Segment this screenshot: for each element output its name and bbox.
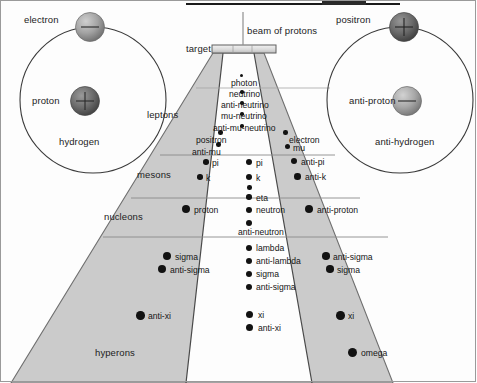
particle-label-anti-xi-center: anti-xi	[258, 324, 281, 333]
particle-dot	[336, 311, 345, 320]
particle-label-positron: positron	[196, 136, 227, 145]
particle-dot	[246, 258, 252, 264]
particle-dot	[246, 271, 252, 277]
particle-label-sigma-center: sigma	[256, 270, 279, 279]
particle-dot	[203, 159, 209, 165]
particle-label-anti-neutron: anti-neutron	[238, 228, 284, 237]
section-label-mesons: mesons	[137, 170, 171, 180]
particle-dot	[246, 311, 253, 318]
hydrogen-caption: hydrogen	[59, 137, 99, 147]
particle-label-xi-right: xi	[348, 312, 354, 321]
anti-hydrogen-caption: anti-hydrogen	[375, 137, 434, 147]
section-label-leptons: leptons	[147, 110, 178, 120]
particle-dot	[216, 142, 221, 147]
particle-dot	[158, 265, 166, 273]
particle-dot	[136, 311, 145, 320]
particle-dot	[283, 130, 288, 135]
particle-label-anti-neutrino: anti-neutrino	[221, 101, 269, 110]
particle-dot	[240, 74, 243, 77]
particle-dot	[246, 174, 252, 180]
particle-dot	[291, 158, 297, 164]
top-rule-bar	[186, 3, 400, 5]
particle-dot	[163, 252, 171, 260]
particle-dot	[294, 173, 301, 180]
particle-label-anti-k: anti-k	[305, 173, 326, 182]
particle-label-anti-sigma-center: anti-sigma	[256, 283, 296, 292]
diagram-canvas	[0, 0, 477, 383]
particle-label-lambda: lambda	[256, 244, 284, 253]
particle-label-mu-neutrino: mu-neutrino	[221, 112, 267, 121]
particle-dot	[348, 348, 357, 357]
particle-dot	[246, 245, 252, 251]
top-rule-bar-accent	[322, 1, 366, 5]
particle-label-anti-lambda: anti-lambda	[256, 257, 301, 266]
electron-label: electron	[24, 15, 59, 25]
particle-label-omega: omega	[361, 349, 387, 358]
positron-label: positron	[336, 15, 371, 25]
particle-dot	[246, 220, 252, 226]
particle-label-sigma-right: sigma	[337, 266, 360, 275]
particle-dot	[326, 265, 334, 273]
particle-label-pi-left: pi	[212, 159, 219, 168]
particle-dot	[182, 205, 190, 213]
particle-dot	[247, 185, 252, 190]
particle-label-neutrino: neutrino	[229, 90, 260, 99]
particle-label-proton: proton	[194, 206, 218, 215]
target-label: target	[186, 44, 211, 54]
particle-spray-diagram: electron proton hydrogen positron anti-p…	[0, 0, 477, 383]
particle-label-k-left: k	[206, 174, 210, 183]
particle-label-mu: mu	[293, 144, 305, 153]
particle-label-k-center: k	[256, 174, 260, 183]
anti-proton-label: anti-proton	[349, 96, 396, 106]
target-slab	[212, 45, 276, 53]
particle-dot	[246, 207, 252, 213]
particle-label-anti-sigma-right: anti-sigma	[333, 253, 373, 262]
section-label-hyperons: hyperons	[95, 348, 135, 358]
particle-dot	[246, 159, 252, 165]
particle-label-anti-sigma-left: anti-sigma	[170, 266, 210, 275]
particle-label-anti-xi-left: anti-xi	[148, 312, 171, 321]
particle-dot	[246, 284, 252, 290]
particle-label-sigma-left: sigma	[175, 253, 198, 262]
particle-label-anti-mu: anti-mu	[192, 148, 221, 157]
particle-dot	[305, 205, 313, 213]
particle-label-eta: eta	[256, 194, 268, 203]
hydrogen-electron-sphere	[76, 13, 105, 42]
particle-label-neutron: neutron	[256, 206, 285, 215]
particle-dot	[218, 130, 223, 135]
proton-label: proton	[32, 96, 60, 106]
beam-of-protons-label: beam of protons	[247, 26, 317, 36]
particle-label-pi-center: pi	[256, 159, 263, 168]
particle-label-anti-pi: anti-pi	[301, 158, 324, 167]
particle-dot	[246, 194, 252, 200]
particle-label-xi-center: xi	[258, 311, 264, 320]
particle-dot	[197, 174, 203, 180]
particle-dot	[322, 252, 330, 260]
anti-hydrogen-positron-sphere	[390, 13, 419, 42]
particle-label-anti-proton: anti-proton	[317, 206, 358, 215]
anti-hydrogen-nucleus-sphere	[393, 87, 422, 116]
particle-label-photon: photon	[231, 79, 257, 88]
particle-dot	[246, 324, 253, 331]
particle-dot	[285, 144, 290, 149]
section-label-nucleons: nucleons	[104, 212, 143, 222]
hydrogen-nucleus-sphere	[71, 87, 100, 116]
